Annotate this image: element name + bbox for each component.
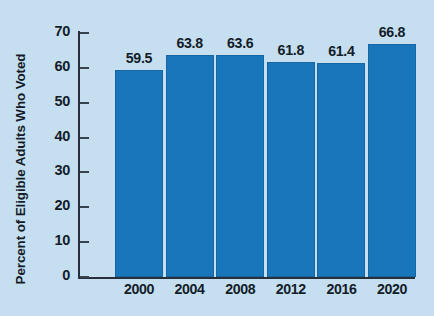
- y-axis-tick: [80, 67, 89, 69]
- bar-2008: [216, 55, 264, 277]
- y-axis-tick-label: 60: [30, 58, 70, 74]
- y-axis-tick-label: 50: [30, 93, 70, 109]
- bar-value-label: 61.4: [311, 43, 371, 59]
- y-axis-tick: [80, 276, 89, 278]
- x-axis-line: [78, 277, 415, 279]
- y-axis-tick-label: 0: [30, 267, 70, 283]
- y-axis-tick: [80, 137, 89, 139]
- bar-value-label: 66.8: [362, 24, 422, 40]
- y-axis-tick: [80, 171, 89, 173]
- bar-value-label: 59.5: [109, 50, 169, 66]
- x-axis-tick-label: 2020: [362, 281, 422, 297]
- y-axis-tick-label: 70: [30, 23, 70, 39]
- bar-2012: [267, 62, 315, 277]
- bar-2000: [115, 70, 163, 277]
- y-axis-tick-label: 10: [30, 232, 70, 248]
- y-axis-tick: [80, 32, 89, 34]
- bar-2020: [368, 44, 416, 277]
- bar-2004: [166, 55, 214, 277]
- y-axis-tick: [80, 206, 89, 208]
- y-axis-tick-label: 40: [30, 128, 70, 144]
- bar-2016: [317, 63, 365, 277]
- y-axis-tick-label: 20: [30, 197, 70, 213]
- bar-chart: Percent of Eligible Adults Who Voted 010…: [0, 0, 434, 316]
- y-axis-tick: [80, 102, 89, 104]
- y-axis-tick: [80, 241, 89, 243]
- y-axis-tick-label: 30: [30, 162, 70, 178]
